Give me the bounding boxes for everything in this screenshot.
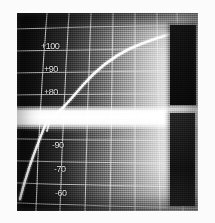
oscillogram-plate: +100 +90 +80 -90 -70 -60 -80 [17, 13, 198, 211]
figure-page: +100 +90 +80 -90 -70 -60 -80 [0, 0, 215, 223]
plate-edge-blur [17, 13, 198, 211]
